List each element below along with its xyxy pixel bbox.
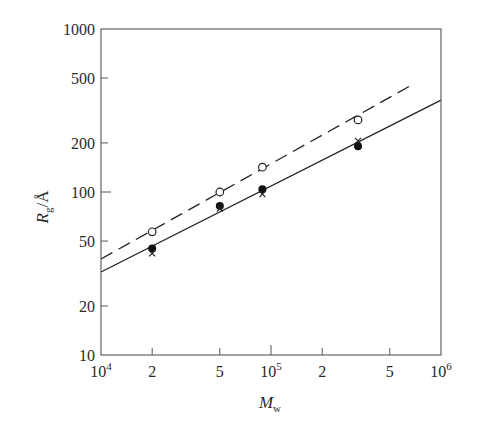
y-tick-label: 500 <box>71 70 95 87</box>
open-circle-marker <box>354 116 362 124</box>
x-tick-label: 105 <box>260 360 282 380</box>
y-tick-label: 20 <box>79 298 95 315</box>
y-tick-label: 1000 <box>63 21 95 38</box>
chart: 10425105251061020501002005001000 Mw Rg/Å <box>0 0 479 425</box>
open-circle-marker <box>148 228 156 236</box>
x-tick-label: 5 <box>386 363 394 380</box>
x-tick-label: 2 <box>318 363 326 380</box>
y-tick-label: 10 <box>79 347 95 364</box>
x-tick-label: 106 <box>430 360 452 380</box>
plot-frame <box>101 29 441 355</box>
open-circle-marker <box>259 163 267 171</box>
tick-labels: 10425105251061020501002005001000 <box>63 21 452 380</box>
y-tick-label: 50 <box>79 233 95 250</box>
axis-ticks <box>101 78 390 355</box>
x-axis-title: Mw <box>258 393 281 414</box>
y-tick-label: 200 <box>71 135 95 152</box>
x-tick-label: 5 <box>216 363 224 380</box>
fit-lines <box>101 84 441 272</box>
y-axis-title: Rg/Å <box>33 190 54 225</box>
y-tick-label: 100 <box>71 184 95 201</box>
x-tick-label: 2 <box>148 363 156 380</box>
open-circle-marker <box>216 188 224 196</box>
data-points <box>148 116 362 256</box>
